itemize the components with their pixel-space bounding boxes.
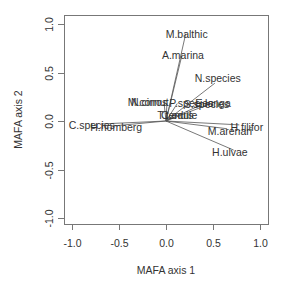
x-tick-label: 0.5 bbox=[206, 237, 221, 249]
x-tick-label: 1.0 bbox=[253, 237, 268, 249]
y-tick-label: -0.5 bbox=[43, 161, 55, 179]
x-axis-title: MAFA axis 1 bbox=[137, 264, 196, 276]
x-tick-label: 0.0 bbox=[159, 237, 174, 249]
y-tick-label: -1.0 bbox=[43, 209, 55, 227]
species-label: M.arenari bbox=[208, 125, 252, 137]
species-label: C.edule bbox=[161, 109, 197, 121]
x-tick-label: -1.0 bbox=[63, 237, 81, 249]
mafa-biplot: M.balthicA.marinaN.speciesM.cornutN.cirr… bbox=[0, 0, 283, 289]
y-axis: -1.0-0.50.00.51.0 bbox=[43, 17, 64, 227]
species-label: A.marina bbox=[162, 49, 204, 61]
y-tick-label: 0.5 bbox=[43, 66, 55, 81]
species-labels: M.balthicA.marinaN.speciesM.cornutN.cirr… bbox=[69, 28, 264, 158]
y-tick-label: 0.0 bbox=[43, 114, 55, 129]
species-label: H.ulvae bbox=[212, 146, 248, 158]
species-label: N.cirros bbox=[131, 96, 167, 108]
y-axis-title: MAFA axis 2 bbox=[12, 90, 24, 149]
species-label: H.homberg bbox=[90, 121, 142, 133]
y-tick-label: 1.0 bbox=[43, 17, 55, 32]
x-axis: -1.0-0.50.00.51.0 bbox=[63, 224, 267, 249]
x-tick-label: -0.5 bbox=[110, 237, 128, 249]
species-label: E.longa bbox=[195, 97, 231, 109]
species-label: N.species bbox=[195, 72, 241, 84]
species-label: M.balthic bbox=[166, 28, 208, 40]
